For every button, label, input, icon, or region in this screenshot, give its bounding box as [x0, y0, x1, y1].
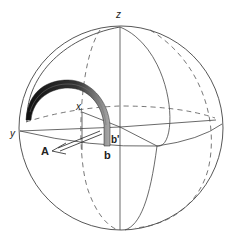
label-z: z: [115, 9, 121, 20]
sphere-outline: [19, 26, 223, 230]
label-b-prime: b': [111, 134, 120, 145]
label-x: x: [75, 101, 82, 112]
sphere-diagram: z x y A b' b: [0, 0, 231, 237]
label-y: y: [9, 128, 16, 139]
vector-a: [52, 131, 102, 154]
label-a: A: [41, 145, 49, 157]
axes: [20, 27, 222, 230]
label-b: b: [104, 149, 111, 161]
